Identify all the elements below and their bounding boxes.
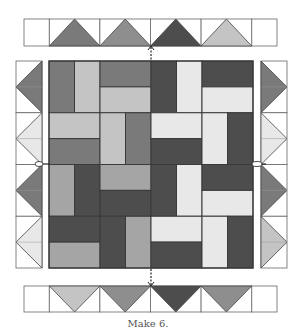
rectangle-unit xyxy=(100,165,151,191)
arrow-right-loop xyxy=(252,162,262,167)
rectangle-unit xyxy=(75,165,101,217)
rectangle-unit xyxy=(151,216,202,242)
rectangle-unit xyxy=(49,113,100,139)
rectangle-unit xyxy=(151,113,202,139)
rectangle-unit xyxy=(49,61,75,113)
rectangle-unit xyxy=(100,216,126,268)
rectangle-unit xyxy=(100,87,151,113)
end-square xyxy=(252,286,277,312)
rectangle-unit xyxy=(202,61,253,87)
bottom-border-strip xyxy=(24,286,277,312)
rectangle-unit xyxy=(100,113,126,165)
top-border-strip xyxy=(24,19,277,46)
rectangle-unit xyxy=(75,61,101,113)
rectangle-unit xyxy=(49,165,75,217)
rectangle-unit xyxy=(202,87,253,113)
rectangle-unit xyxy=(151,139,202,165)
rectangle-unit xyxy=(202,190,253,216)
center-block xyxy=(49,61,253,268)
rectangle-unit xyxy=(49,242,100,268)
rectangle-unit xyxy=(151,165,177,217)
end-square xyxy=(24,286,49,312)
caption: Make 6. xyxy=(0,318,296,329)
rectangle-unit xyxy=(202,165,253,191)
rectangle-unit xyxy=(126,216,152,268)
quilt-assembly-diagram xyxy=(0,0,296,336)
arrow-left-loop xyxy=(35,162,43,167)
end-square xyxy=(24,19,49,46)
rectangle-unit xyxy=(49,139,100,165)
rectangle-unit xyxy=(49,216,100,242)
rectangle-unit xyxy=(100,61,151,87)
rectangle-unit xyxy=(228,113,254,165)
quadrant-top-right xyxy=(151,61,253,165)
rectangle-unit xyxy=(151,61,177,113)
rectangle-unit xyxy=(151,242,202,268)
rectangle-unit xyxy=(177,165,203,217)
rectangle-unit xyxy=(177,61,203,113)
rectangle-unit xyxy=(202,216,228,268)
quadrant-bottom-right xyxy=(151,165,253,269)
rectangle-unit xyxy=(228,216,254,268)
rectangle-unit xyxy=(126,113,152,165)
rectangle-unit xyxy=(100,190,151,216)
rectangle-unit xyxy=(202,113,228,165)
quadrant-bottom-left xyxy=(49,165,151,269)
end-square xyxy=(252,19,277,46)
quadrant-top-left xyxy=(49,61,151,165)
